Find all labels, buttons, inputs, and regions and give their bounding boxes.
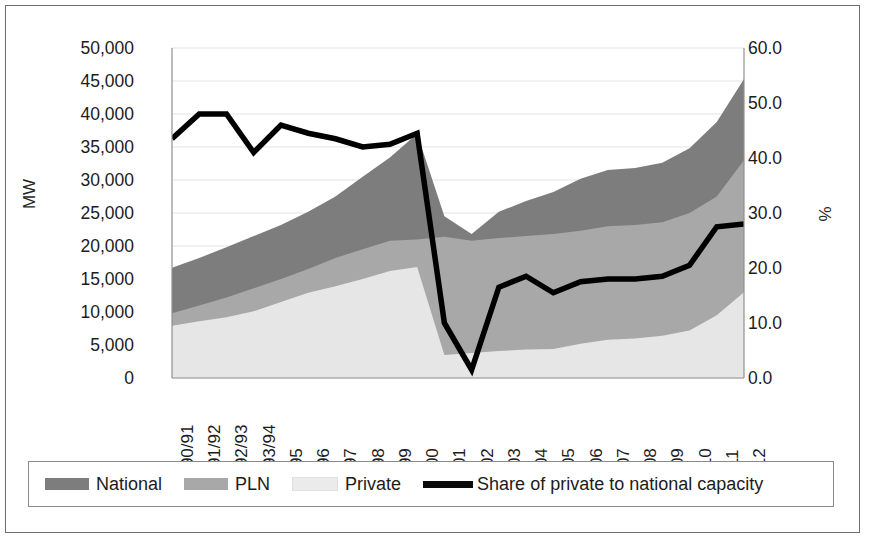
y-tick-left: 5,000: [34, 336, 134, 354]
y-axis-title-right: %: [816, 194, 836, 234]
y-tick-left: 45,000: [34, 72, 134, 90]
y-tick-right: 60.0: [748, 39, 808, 57]
y-tick-left: 30,000: [34, 171, 134, 189]
y-tick-left: 25,000: [34, 204, 134, 222]
legend-color-swatch: [292, 477, 338, 491]
legend-line-swatch: [423, 481, 473, 488]
y-axis-ticks-right: 0.010.020.030.040.050.060.0: [748, 6, 808, 406]
y-tick-left: 10,000: [34, 303, 134, 321]
y-tick-left: 0: [34, 369, 134, 387]
legend-label: National: [96, 474, 162, 495]
legend-label: PLN: [235, 474, 270, 495]
legend-item[interactable]: National: [45, 474, 162, 495]
y-tick-left: 40,000: [34, 105, 134, 123]
y-tick-right: 40.0: [748, 149, 808, 167]
legend-color-swatch: [184, 478, 228, 490]
chart-legend: NationalPLNPrivateShare of private to na…: [28, 461, 834, 507]
area-chart-svg: [6, 6, 861, 446]
chart-figure: MW % 05,00010,00015,00020,00025,00030,00…: [5, 5, 860, 533]
y-tick-left: 50,000: [34, 39, 134, 57]
legend-label: Share of private to national capacity: [477, 474, 763, 495]
y-tick-right: 20.0: [748, 259, 808, 277]
y-tick-left: 15,000: [34, 270, 134, 288]
legend-label: Private: [345, 474, 401, 495]
y-tick-right: 0.0: [748, 369, 808, 387]
legend-item[interactable]: Private: [292, 474, 401, 495]
y-tick-right: 50.0: [748, 94, 808, 112]
y-axis-ticks-left: 05,00010,00015,00020,00025,00030,00035,0…: [34, 6, 134, 406]
legend-item[interactable]: PLN: [184, 474, 270, 495]
y-tick-left: 20,000: [34, 237, 134, 255]
y-tick-right: 10.0: [748, 314, 808, 332]
y-tick-right: 30.0: [748, 204, 808, 222]
y-tick-left: 35,000: [34, 138, 134, 156]
legend-item[interactable]: Share of private to national capacity: [423, 474, 763, 495]
legend-color-swatch: [45, 478, 89, 490]
chart-plot-region: MW % 05,00010,00015,00020,00025,00030,00…: [6, 6, 861, 446]
